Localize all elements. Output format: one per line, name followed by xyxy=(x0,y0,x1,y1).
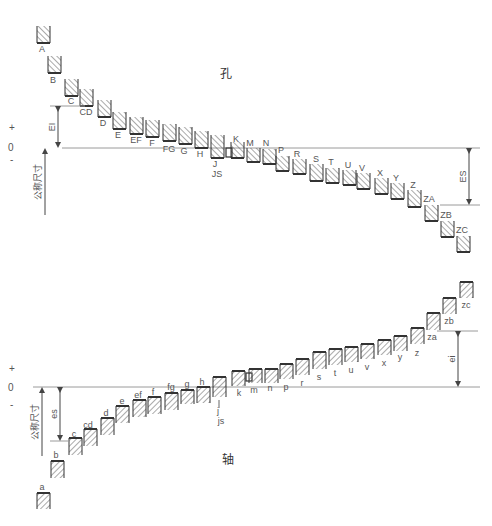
deviation-label: U xyxy=(345,160,352,170)
deviation-label: P xyxy=(278,145,284,155)
shaft-deviation-zone-zc: zc xyxy=(460,282,473,310)
deviation-label: s xyxy=(317,372,322,382)
hatch-fill xyxy=(425,205,438,221)
hole-deviation-zone-Y: Y xyxy=(391,173,404,199)
hatch-fill xyxy=(113,112,126,129)
hatch-fill xyxy=(296,359,309,375)
minus-sign: - xyxy=(10,399,13,410)
hatch-fill xyxy=(133,400,146,417)
hatch-fill xyxy=(276,156,289,171)
hatch-fill xyxy=(101,418,114,435)
shaft-deviation-zone-h: h xyxy=(197,377,210,403)
minus-sign: - xyxy=(10,154,13,165)
hatch-fill xyxy=(48,56,61,73)
deviation-label: FG xyxy=(163,144,176,154)
zero-sign: 0 xyxy=(8,142,14,153)
hole-deviation-zone-V: V xyxy=(357,163,370,189)
deviation-label: ZB xyxy=(440,210,452,220)
shaft-deviation-zone-d: d xyxy=(101,408,114,435)
deviation-label: T xyxy=(328,157,334,167)
hatch-fill xyxy=(232,371,245,386)
hatch-fill xyxy=(80,89,93,106)
hatch-fill xyxy=(313,352,326,369)
shaft-deviation-zone-x: x xyxy=(378,340,391,368)
hole-deviation-zone-EF: EF xyxy=(130,117,143,145)
deviation-label: J xyxy=(213,159,218,169)
deviation-label: x xyxy=(382,358,387,368)
hole-deviation-zone-X: X xyxy=(375,168,388,194)
deviation-label: V xyxy=(359,163,365,173)
hole-deviation-zone-FG: FG xyxy=(163,124,176,154)
deviation-label: cd xyxy=(83,420,93,430)
hatch-fill xyxy=(408,190,421,207)
shaft-deviation-zone-e: e xyxy=(116,396,129,423)
hole-deviation-zone-D: D xyxy=(98,100,111,128)
shaft-deviation-zone-n: n xyxy=(265,369,278,393)
hole-deviation-zone-C: C xyxy=(65,79,78,106)
deviation-label: zc xyxy=(462,300,472,310)
hatch-fill xyxy=(84,429,97,446)
hatch-fill xyxy=(213,377,226,397)
deviation-label: A xyxy=(39,44,45,54)
deviation-label: b xyxy=(53,450,58,460)
hatch-fill xyxy=(69,438,82,455)
shaft-section: +0-公称尺寸轴abccddeefffgghjkmnprstuvxyzzazbz… xyxy=(8,282,480,509)
deviation-label: Z xyxy=(410,180,416,190)
shaft-deviation-zone-a: a xyxy=(37,482,50,509)
deviation-label: ZA xyxy=(423,194,435,204)
shaft-deviation-zone-t: t xyxy=(329,349,342,378)
hole-deviation-zone-N: N xyxy=(263,138,276,164)
hatch-fill xyxy=(51,461,64,478)
deviation-label: H xyxy=(197,149,204,159)
deviation-label: za xyxy=(427,332,437,342)
hatch-fill xyxy=(441,221,454,237)
hole-deviation-zone-K: K xyxy=(231,134,244,158)
hatch-fill xyxy=(179,127,192,144)
deviation-label: S xyxy=(313,154,319,164)
deviation-label: g xyxy=(184,379,189,389)
deviation-label: C xyxy=(68,96,75,106)
hatch-fill xyxy=(165,393,178,410)
hole-deviation-zone-ZA: ZA xyxy=(423,194,438,221)
hole-deviation-zone-M: M xyxy=(246,138,260,162)
js-label: JS xyxy=(212,169,223,179)
shaft-deviation-zone-cd: cd xyxy=(83,420,97,446)
hatch-fill xyxy=(427,313,440,330)
hole-deviation-zone-J: J xyxy=(211,135,224,169)
hatch-fill xyxy=(163,124,176,141)
hatch-fill xyxy=(181,390,194,404)
shaft-deviation-zone-ef: ef xyxy=(133,390,146,417)
deviation-label: zb xyxy=(444,316,454,326)
deviation-label: M xyxy=(246,138,254,148)
hatch-fill xyxy=(361,344,374,359)
deviation-label: h xyxy=(199,377,204,387)
shaft-deviation-zone-y: y xyxy=(394,336,407,362)
deviation-label: n xyxy=(267,383,272,393)
deviation-label: v xyxy=(365,362,370,372)
hole-deviation-zone-ZB: ZB xyxy=(440,210,454,237)
deviation-label: D xyxy=(100,118,107,128)
deviation-label: m xyxy=(250,385,258,395)
hole-deviation-zone-B: B xyxy=(48,56,61,85)
deviation-label: ef xyxy=(134,390,142,400)
hole-deviation-zone-F: F xyxy=(146,120,159,148)
hatch-fill xyxy=(375,178,388,194)
deviation-label: d xyxy=(103,408,108,418)
hatch-fill xyxy=(195,131,208,148)
hatch-fill xyxy=(310,164,323,181)
deviation-label: EF xyxy=(130,135,142,145)
deviation-label: X xyxy=(377,168,383,178)
fundamental-deviation-diagram: +0-公称尺寸孔ABCCDDEEFFFGGHJKMNPRSTUVXYZZAZBZ… xyxy=(0,0,492,526)
nominal-size-label: 公称尺寸 xyxy=(29,404,40,440)
hole-deviation-zone-R: R xyxy=(293,149,306,174)
hatch-fill xyxy=(357,173,370,189)
shaft-deviation-zone-zb: zb xyxy=(443,298,456,326)
deviation-label: t xyxy=(334,368,337,378)
shaft-deviation-zone-c: c xyxy=(69,429,82,455)
hatch-fill xyxy=(460,282,473,298)
hatch-fill xyxy=(378,340,391,355)
hatch-fill xyxy=(345,347,358,362)
deviation-label: u xyxy=(348,365,353,375)
hatch-fill xyxy=(231,142,244,158)
deviation-label: p xyxy=(283,382,288,392)
